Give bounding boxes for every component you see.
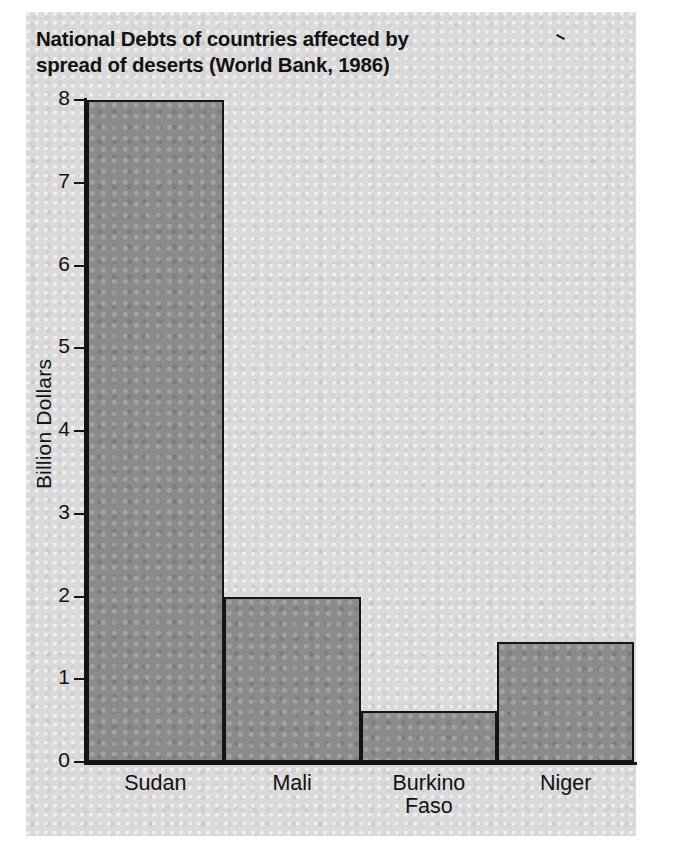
- x-tick-label-burkino-faso: Burkino Faso: [361, 772, 498, 818]
- y-tick-4: 4: [74, 430, 85, 432]
- y-tick-5: 5: [74, 347, 85, 349]
- y-tick-8: 8: [74, 99, 85, 101]
- y-tick-0: 0: [74, 761, 85, 763]
- y-tick-label-5: 5: [40, 334, 70, 358]
- x-tick-label-mali: Mali: [224, 772, 361, 795]
- plot-area: 0 1 2 3 4 5 6 7 8 Sudan Mal: [87, 100, 634, 762]
- bar-niger[interactable]: [497, 642, 634, 762]
- y-tick-label-2: 2: [40, 583, 70, 607]
- y-tick-3: 3: [74, 513, 85, 515]
- y-tick-label-0: 0: [40, 748, 70, 772]
- y-tick-label-8: 8: [40, 86, 70, 110]
- x-tick-label-sudan: Sudan: [87, 772, 224, 795]
- y-tick-label-1: 1: [40, 665, 70, 689]
- y-tick-label-7: 7: [40, 169, 70, 193]
- bar-burkino-faso[interactable]: [361, 711, 498, 762]
- chart-figure: National Debts of countries affected by …: [0, 0, 683, 848]
- chart-title: National Debts of countries affected by …: [36, 26, 596, 78]
- y-tick-7: 7: [74, 182, 85, 184]
- y-tick-label-6: 6: [40, 252, 70, 276]
- y-tick-label-4: 4: [40, 417, 70, 441]
- bar-sudan[interactable]: [87, 100, 224, 762]
- y-tick-label-3: 3: [40, 500, 70, 524]
- y-tick-2: 2: [74, 596, 85, 598]
- x-axis-line: [84, 762, 637, 765]
- y-tick-1: 1: [74, 678, 85, 680]
- bar-mali[interactable]: [224, 597, 361, 763]
- x-tick-label-niger: Niger: [497, 772, 634, 795]
- y-tick-6: 6: [74, 265, 85, 267]
